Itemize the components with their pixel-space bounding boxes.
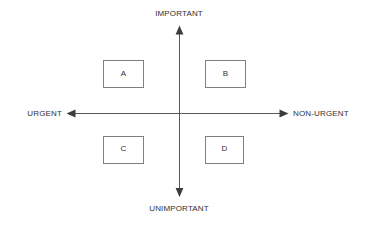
- axis-label-urgent: URGENT: [14, 109, 62, 119]
- axis-label-non-urgent: NON-URGENT: [293, 109, 363, 119]
- diagram-canvas: IMPORTANT UNIMPORTANT URGENT NON-URGENT …: [0, 0, 368, 225]
- arrow-right-icon: [280, 110, 289, 118]
- arrow-down-icon: [176, 188, 184, 197]
- quadrant-label-c: C: [103, 144, 144, 154]
- arrow-left-icon: [67, 110, 76, 118]
- quadrant-label-d: D: [205, 144, 244, 154]
- quadrant-label-b: B: [205, 69, 246, 79]
- axis-label-important: IMPORTANT: [0, 9, 358, 19]
- axis-label-unimportant: UNIMPORTANT: [0, 204, 358, 214]
- arrow-up-icon: [176, 26, 184, 35]
- quadrant-label-a: A: [103, 69, 144, 79]
